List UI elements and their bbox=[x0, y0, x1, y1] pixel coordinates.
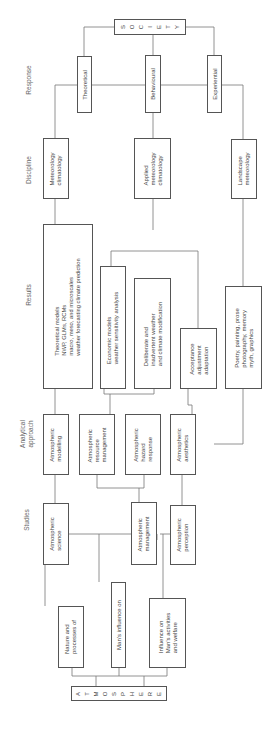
approach-label: Atmospheric hazard response bbox=[133, 428, 154, 461]
studies-label: Atmospheric science bbox=[49, 517, 63, 550]
discipline-meteorology-climatology: Meteorology climatology bbox=[43, 138, 69, 199]
results-label: Economic models weather sensitivity anal… bbox=[106, 291, 120, 363]
results-poetry-painting: Poetry, painting, prose photography, mem… bbox=[225, 286, 262, 389]
approach-label: Atmospheric aesthetics bbox=[176, 428, 190, 461]
studies-atmospheric-science: Atmospheric science bbox=[43, 503, 69, 565]
approach-aesthetics: Atmospheric aesthetics bbox=[170, 414, 196, 475]
row-label-studies: Studies bbox=[23, 502, 33, 538]
foundation-label: Man's influence on bbox=[115, 600, 122, 650]
discipline-label: Meteorology climatology bbox=[49, 152, 63, 185]
response-label: Experiential bbox=[211, 68, 218, 99]
response-theoretical: Theoretical bbox=[77, 56, 92, 113]
atmosphere-label: A T M O S P H E R E bbox=[74, 691, 164, 696]
results-acceptance: Acceptance adjustment adaptation bbox=[180, 328, 217, 389]
discipline-applied-meteorology: Applied meteorology climatology bbox=[134, 138, 171, 199]
discipline-label: Landscape meteorology bbox=[237, 152, 251, 185]
results-label: Poetry, painting, prose photography, mem… bbox=[233, 308, 254, 368]
foundation-mans-influence: Man's influence on bbox=[111, 582, 126, 668]
atmosphere-box: A T M O S P H E R E bbox=[71, 686, 167, 701]
response-behavioural: Behavioural bbox=[145, 55, 161, 113]
response-label: Behavioural bbox=[150, 68, 157, 100]
approach-label: Atmospheric modelling bbox=[49, 428, 63, 461]
results-label: Theoretical models NWP, GLMs, RCMs macro… bbox=[54, 258, 82, 355]
response-label: Theoretical bbox=[81, 70, 88, 100]
response-experiential: Experiential bbox=[207, 55, 222, 113]
studies-atmospheric-perception: Atmospheric perception bbox=[170, 505, 196, 565]
studies-label: Atmospheric perception bbox=[176, 518, 190, 551]
approach-resource-management: Atmospheric resource management bbox=[79, 414, 115, 475]
foundation-label: Influence on Man's activities and welfar… bbox=[157, 613, 178, 654]
foundation-label: Nature and processes of bbox=[64, 620, 78, 654]
row-label-results: Results bbox=[25, 277, 35, 313]
foundation-nature-processes: Nature and processes of bbox=[58, 606, 84, 668]
row-label-response: Response bbox=[25, 60, 35, 100]
row-label-analytical-approach: Analytical approach bbox=[19, 412, 37, 456]
studies-atmospheric-management: Atmospheric management bbox=[131, 502, 157, 565]
approach-label: Atmospheric resource management bbox=[87, 427, 108, 462]
studies-label: Atmospheric management bbox=[137, 516, 151, 551]
approach-hazard-response: Atmospheric hazard response bbox=[125, 414, 161, 475]
discipline-label: Applied meteorology climatology bbox=[142, 152, 163, 185]
foundation-influence-welfare: Influence on Man's activities and welfar… bbox=[149, 598, 186, 668]
results-economic-models: Economic models weather sensitivity anal… bbox=[100, 266, 126, 389]
row-label-discipline: Discipline bbox=[25, 148, 35, 192]
approach-modelling: Atmospheric modelling bbox=[43, 414, 69, 475]
results-label: Deliberate and inadvertent weather and c… bbox=[142, 301, 163, 365]
society-box: S O C I E T Y bbox=[114, 19, 186, 35]
results-theoretical-models: Theoretical models NWP, GLMs, RCMs macro… bbox=[43, 224, 93, 389]
connector-lines bbox=[0, 0, 263, 739]
results-weather-modification: Deliberate and inadvertent weather and c… bbox=[134, 278, 171, 389]
results-label: Acceptance adjustment adaptation bbox=[188, 343, 209, 374]
society-label: S O C I E T Y bbox=[119, 25, 182, 30]
discipline-landscape-meteorology: Landscape meteorology bbox=[231, 139, 257, 199]
